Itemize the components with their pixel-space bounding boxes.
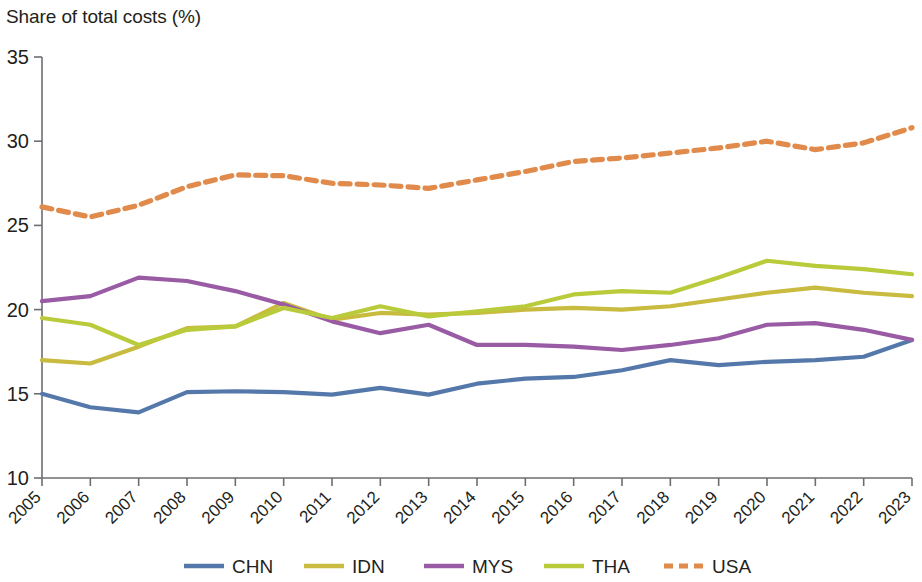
- x-tick-label: 2022: [826, 487, 866, 527]
- x-tick-label: 2008: [150, 487, 190, 527]
- y-tick-label: 10: [7, 467, 29, 489]
- x-tick-label: 2013: [391, 487, 431, 527]
- x-tick-label: 2023: [875, 487, 915, 527]
- y-tick-label: 25: [7, 214, 29, 236]
- y-axis: 101520253035: [7, 46, 42, 489]
- x-tick-label: 2012: [343, 487, 383, 527]
- legend-label-idn[interactable]: IDN: [352, 556, 385, 577]
- legend-label-chn[interactable]: CHN: [232, 556, 273, 577]
- series-line-tha: [42, 261, 912, 345]
- y-tick-label: 30: [7, 130, 29, 152]
- x-tick-label: 2017: [585, 487, 625, 527]
- chart-container: Share of total costs (%) 101520253035 20…: [0, 0, 922, 582]
- chart-legend: CHNIDNMYSTHAUSA: [184, 556, 751, 577]
- series-line-usa: [42, 128, 912, 217]
- x-tick-label: 2006: [53, 487, 93, 527]
- x-tick-label: 2007: [101, 487, 141, 527]
- legend-label-mys[interactable]: MYS: [472, 556, 513, 577]
- x-tick-label: 2009: [198, 487, 238, 527]
- y-tick-label: 15: [7, 383, 29, 405]
- line-chart-plot: 101520253035 200520062007200820092010201…: [0, 0, 922, 582]
- series-line-chn: [42, 340, 912, 412]
- x-tick-label: 2020: [730, 487, 770, 527]
- x-axis: 2005200620072008200920102011201220132014…: [5, 478, 915, 528]
- legend-label-tha[interactable]: THA: [592, 556, 630, 577]
- x-tick-label: 2019: [681, 487, 721, 527]
- x-tick-label: 2018: [633, 487, 673, 527]
- x-tick-label: 2021: [778, 487, 818, 527]
- series-lines: [42, 128, 912, 413]
- y-tick-label: 20: [7, 299, 29, 321]
- legend-label-usa[interactable]: USA: [712, 556, 751, 577]
- x-tick-label: 2010: [246, 487, 286, 527]
- x-tick-label: 2011: [296, 487, 335, 526]
- x-tick-label: 2014: [440, 487, 480, 527]
- y-tick-label: 35: [7, 46, 29, 68]
- x-tick-label: 2005: [5, 487, 45, 527]
- x-tick-label: 2015: [488, 487, 528, 527]
- x-tick-label: 2016: [536, 487, 576, 527]
